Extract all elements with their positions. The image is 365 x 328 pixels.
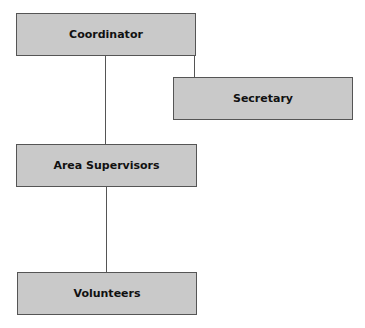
- node-label: Area Supervisors: [53, 159, 159, 172]
- node-secretary: Secretary: [173, 77, 353, 120]
- connector-coordinator-to-area-supervisors: [105, 56, 106, 144]
- connector-coordinator-to-secretary: [194, 56, 195, 77]
- node-volunteers: Volunteers: [17, 272, 197, 315]
- node-label: Coordinator: [69, 28, 143, 41]
- node-label: Volunteers: [73, 287, 140, 300]
- node-coordinator: Coordinator: [16, 13, 196, 56]
- node-label: Secretary: [233, 92, 293, 105]
- connector-area-supervisors-to-volunteers: [106, 186, 107, 272]
- node-area-supervisors: Area Supervisors: [16, 144, 197, 187]
